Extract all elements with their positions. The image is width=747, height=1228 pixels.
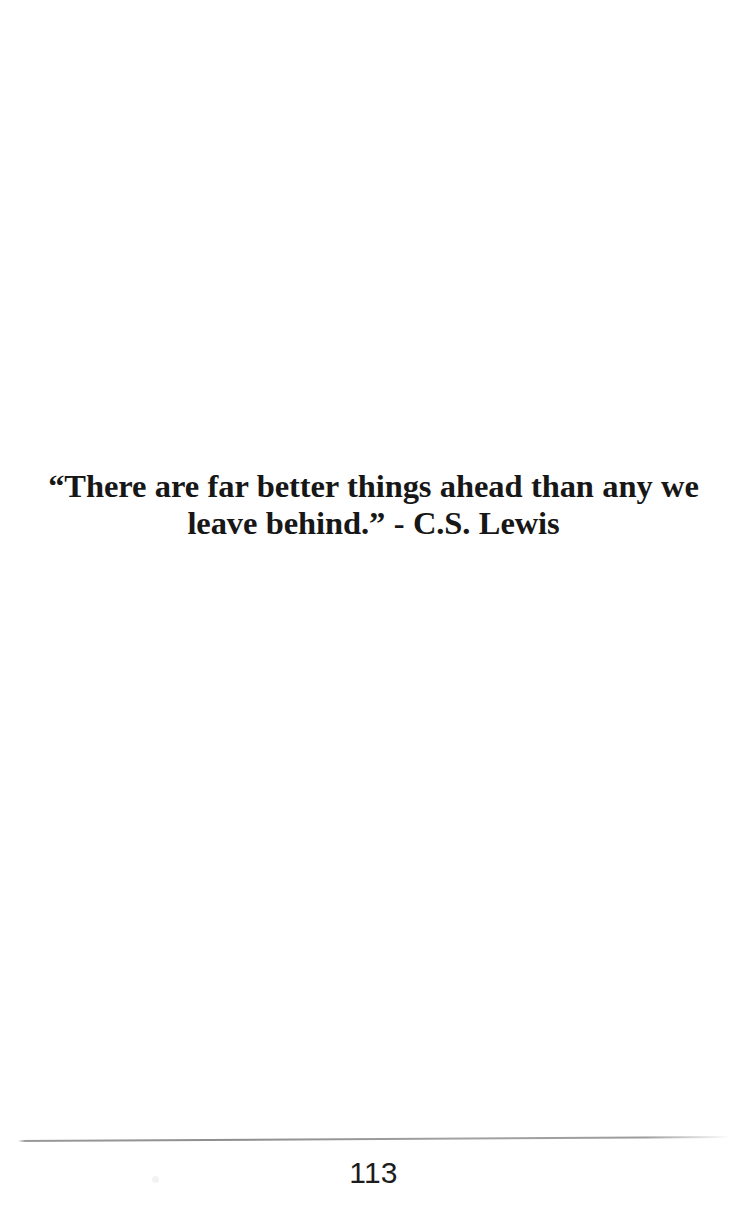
quote-block: “There are far better things ahead than …	[38, 468, 709, 542]
page-number: 113	[0, 1158, 747, 1188]
quote-line-2: leave behind.” - C.S. Lewis	[38, 505, 709, 542]
footer-divider	[18, 1136, 730, 1142]
page-footer: 113	[0, 1120, 747, 1228]
scan-artifact-speck	[152, 1176, 159, 1183]
book-page: “There are far better things ahead than …	[0, 0, 747, 1228]
quote-text: “There are far better things ahead than …	[38, 468, 709, 542]
quote-line-1: “There are far better things ahead than …	[38, 468, 709, 505]
